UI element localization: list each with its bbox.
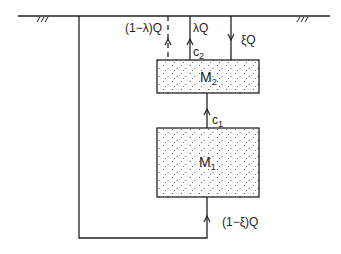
bypass-pipe [79, 16, 207, 238]
label-bypass-flow: (1−ξ)Q [222, 215, 258, 229]
label-lambda-flow: λQ [193, 21, 208, 35]
flow-diagram: (1−λ)Q λQ ξQ (1−ξ)Q c2 c1 M2 M1 [0, 0, 341, 254]
label-c2: c2 [193, 45, 204, 61]
surface-hatch-left [37, 17, 48, 22]
surface-hatch-right [297, 17, 308, 22]
label-dashed-flow: (1−λ)Q [125, 21, 162, 35]
label-c1: c1 [212, 113, 223, 129]
label-xi-flow: ξQ [241, 33, 256, 47]
